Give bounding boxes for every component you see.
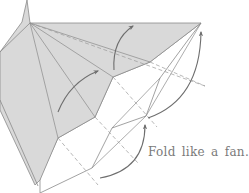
fold-instruction-caption: Fold like a fan. [148,145,249,159]
origami-diagram [0,0,249,193]
